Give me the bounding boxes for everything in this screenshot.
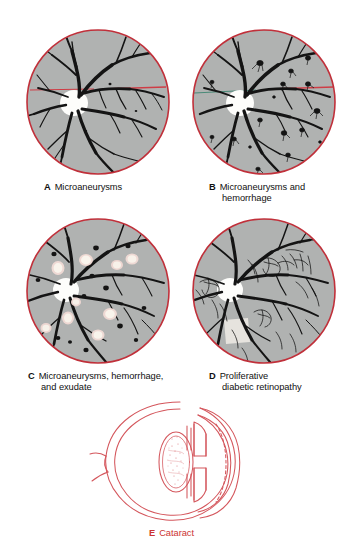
panel-caption-e-line1: Cataract: [159, 528, 194, 538]
panel-caption-b-line2: hemorrhage: [209, 193, 305, 204]
caption-panel-b: BMicroaneurysms and hemorrhage: [209, 182, 305, 205]
caption-panel-d: DProliferative diabetic retinopathy: [209, 371, 302, 394]
caption-panel-a: AMicroaneurysms: [44, 182, 122, 193]
panel-label-a: A: [44, 182, 51, 192]
fundus-image-c: [24, 216, 172, 366]
panel-caption-d-line2: diabetic retinopathy: [209, 382, 302, 393]
iris-lower: [194, 468, 206, 502]
optic-nerve-edge: [105, 456, 108, 472]
lens-inner: [163, 436, 190, 488]
lens-outline: [159, 432, 193, 492]
panel-label-c: C: [28, 371, 35, 381]
panel-label-b: B: [209, 182, 216, 192]
eye-cross-section-diagram: [88, 398, 260, 524]
panel-caption-b-line1: Microaneurysms and: [220, 182, 305, 192]
cataract-striae: [167, 450, 184, 476]
fundus-image-d: [190, 216, 338, 366]
panel-caption-a-line1: Microaneurysms: [55, 182, 123, 192]
caption-panel-c: CMicroaneurysms, hemorrhage, and exudate: [28, 371, 163, 394]
optic-nerve-upper: [90, 453, 106, 456]
cornea-outer: [200, 408, 240, 518]
optic-nerve-lower: [92, 472, 108, 481]
caption-panel-e: ECataract: [0, 528, 343, 539]
panel-label-d: D: [209, 371, 216, 381]
sclera-outline: [106, 402, 235, 520]
panel-caption-c-line1: Microaneurysms, hemorrhage,: [39, 371, 164, 381]
figure-diabetic-eye-disease: AMicroaneurysms: [0, 0, 343, 549]
fundus-image-b: [190, 27, 338, 177]
retina-line: [115, 409, 228, 515]
panel-label-e: E: [149, 528, 155, 538]
fundus-image-a: [24, 27, 172, 177]
iris-upper: [194, 422, 206, 456]
panel-e: [88, 398, 260, 524]
panel-caption-c-line2: and exudate: [28, 382, 163, 393]
panel-caption-d-line1: Proliferative: [220, 371, 268, 381]
